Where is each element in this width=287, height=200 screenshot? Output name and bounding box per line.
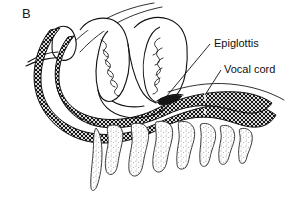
epiglottis-label: Epiglottis (214, 37, 259, 49)
figure-container: B Epiglottis Vocal cord (0, 0, 287, 200)
vocal-cord-label: Vocal cord (224, 63, 275, 75)
cervical-vertebrae (91, 121, 253, 190)
anatomical-diagram: B Epiglottis Vocal cord (0, 0, 287, 200)
panel-label: B (22, 6, 31, 21)
vocal-cord-leader-line (205, 70, 221, 95)
